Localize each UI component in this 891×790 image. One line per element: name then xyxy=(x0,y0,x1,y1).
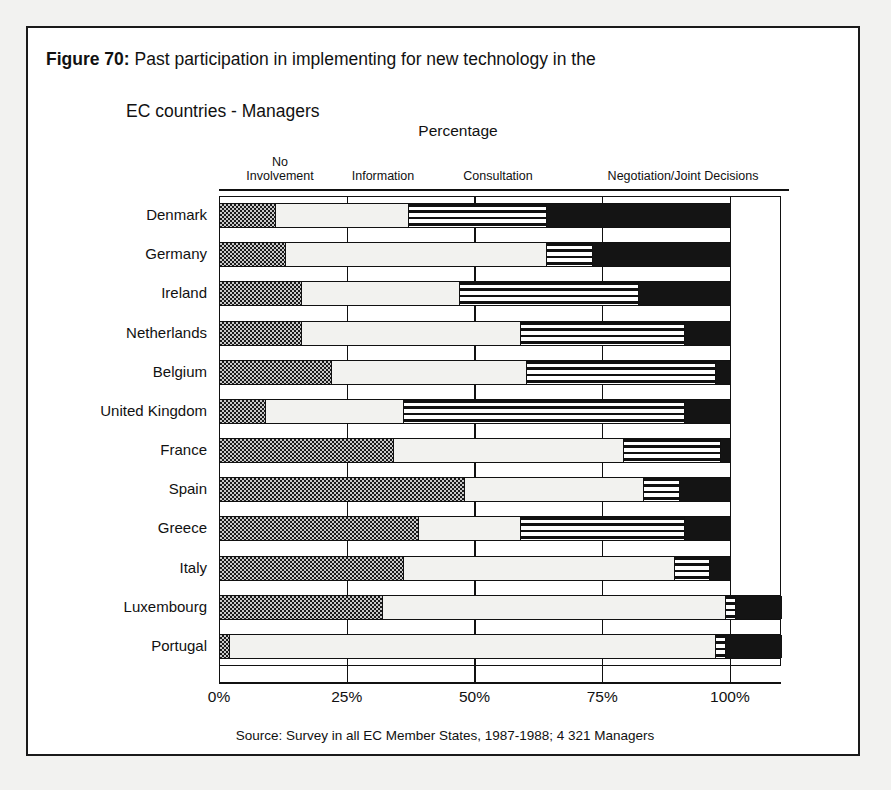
stacked-bar xyxy=(219,203,730,228)
stacked-bar xyxy=(219,516,730,541)
bar-row xyxy=(219,242,781,267)
bar-segment-consultation xyxy=(624,439,721,462)
bar-segment-information xyxy=(286,243,547,266)
bar-row xyxy=(219,399,781,424)
bar-segment-consultation xyxy=(547,243,593,266)
stacked-bar xyxy=(219,595,781,620)
x-tick-label-75: 75% xyxy=(567,688,637,706)
bar-segment-information xyxy=(302,322,522,345)
category-label-belgium: Belgium xyxy=(153,363,207,380)
bar-segment-information xyxy=(266,400,404,423)
chart-plot-area xyxy=(219,196,781,666)
legend-label-no-involvement-line1: No xyxy=(234,156,326,170)
bar-segment-consultation xyxy=(726,596,736,619)
bar-segment-consultation xyxy=(521,517,684,540)
figure-title: Figure 70: Past participation in impleme… xyxy=(46,46,836,72)
stacked-bar xyxy=(219,321,730,346)
bar-segment-negotiation xyxy=(685,517,731,540)
x-tick-50 xyxy=(474,666,475,683)
category-label-luxembourg: Luxembourg xyxy=(124,598,207,615)
bar-segment-negotiation xyxy=(726,635,782,658)
bar-segment-negotiation xyxy=(710,557,730,580)
bar-segment-negotiation xyxy=(639,282,731,305)
x-tick-label-25: 25% xyxy=(312,688,382,706)
bar-segment-information xyxy=(465,478,644,501)
legend-item-negotiation: Negotiation/Joint Decisions xyxy=(568,170,798,184)
figure-title-line1: Past participation in implementing for n… xyxy=(135,49,596,69)
stacked-bar xyxy=(219,556,730,581)
bar-segment-no-involvement xyxy=(220,635,230,658)
bar-row xyxy=(219,281,781,306)
category-label-denmark: Denmark xyxy=(146,206,207,223)
bar-segment-consultation xyxy=(460,282,639,305)
bar-row xyxy=(219,477,781,502)
bar-segment-negotiation xyxy=(680,478,731,501)
bar-segment-no-involvement xyxy=(220,400,266,423)
bar-segment-no-involvement xyxy=(220,361,332,384)
bar-row xyxy=(219,556,781,581)
stacked-bar xyxy=(219,242,730,267)
bar-row xyxy=(219,516,781,541)
bar-segment-no-involvement xyxy=(220,282,302,305)
legend-item-no-involvement: No Involvement xyxy=(234,156,326,183)
bar-segment-information xyxy=(332,361,526,384)
bar-segment-no-involvement xyxy=(220,517,419,540)
bar-segment-information xyxy=(383,596,725,619)
category-label-greece: Greece xyxy=(158,519,207,536)
category-label-germany: Germany xyxy=(145,245,207,262)
bar-row xyxy=(219,634,781,659)
x-tick-25 xyxy=(347,666,348,683)
bar-segment-consultation xyxy=(644,478,680,501)
stacked-bar xyxy=(219,281,730,306)
bar-segment-no-involvement xyxy=(220,478,465,501)
bar-segment-consultation xyxy=(675,557,711,580)
bar-segment-negotiation xyxy=(685,400,731,423)
bar-segment-information xyxy=(404,557,675,580)
bar-segment-no-involvement xyxy=(220,204,276,227)
source-note: Source: Survey in all EC Member States, … xyxy=(28,728,862,743)
category-label-ireland: Ireland xyxy=(161,284,207,301)
bar-segment-consultation xyxy=(409,204,547,227)
figure-number: Figure 70: xyxy=(46,49,130,69)
category-label-france: France xyxy=(160,441,207,458)
x-tick-label-50: 50% xyxy=(439,688,509,706)
legend-divider xyxy=(219,189,789,191)
stacked-bar xyxy=(219,477,730,502)
category-label-united-kingdom: United Kingdom xyxy=(100,402,207,419)
bar-row xyxy=(219,595,781,620)
bar-segment-consultation xyxy=(716,635,726,658)
x-axis xyxy=(219,666,781,684)
bar-segment-information xyxy=(394,439,624,462)
x-tick-100 xyxy=(730,666,731,683)
bar-segment-no-involvement xyxy=(220,557,404,580)
figure-title-line2: EC countries - Managers xyxy=(126,98,320,124)
stacked-bar xyxy=(219,399,730,424)
category-label-spain: Spain xyxy=(169,480,207,497)
bar-segment-negotiation xyxy=(736,596,782,619)
bar-segment-information xyxy=(419,517,521,540)
bar-segment-information xyxy=(230,635,715,658)
x-axis-line xyxy=(219,682,781,684)
legend-item-consultation: Consultation xyxy=(443,170,553,184)
x-tick-0 xyxy=(219,666,220,683)
bar-row xyxy=(219,203,781,228)
bar-segment-consultation xyxy=(527,361,716,384)
bar-segment-no-involvement xyxy=(220,439,394,462)
bar-segment-information xyxy=(276,204,409,227)
bar-segment-negotiation xyxy=(685,322,731,345)
bar-segment-negotiation xyxy=(716,361,731,384)
legend-label-no-involvement-line2: Involvement xyxy=(234,170,326,184)
axis-title-percentage: Percentage xyxy=(138,122,778,140)
x-tick-label-0: 0% xyxy=(184,688,254,706)
bar-row xyxy=(219,438,781,463)
x-tick-75 xyxy=(602,666,603,683)
bar-segment-negotiation xyxy=(593,243,731,266)
category-label-italy: Italy xyxy=(179,559,207,576)
stacked-bar xyxy=(219,360,730,385)
category-label-portugal: Portugal xyxy=(151,637,207,654)
stacked-bar xyxy=(219,634,781,659)
legend-item-information: Information xyxy=(328,170,438,184)
bar-segment-negotiation xyxy=(547,204,731,227)
figure-frame: Figure 70: Past participation in impleme… xyxy=(26,26,860,756)
bar-segment-information xyxy=(302,282,460,305)
